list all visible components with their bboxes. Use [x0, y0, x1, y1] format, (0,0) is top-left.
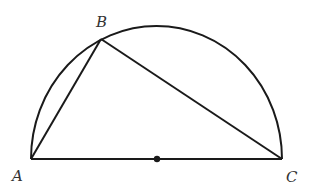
label-a: A	[10, 167, 23, 185]
semicircle-triangle-diagram: B A C	[0, 0, 312, 188]
label-c: C	[286, 168, 298, 186]
label-b: B	[95, 13, 107, 31]
center-point	[154, 156, 160, 162]
segment-bc	[101, 39, 282, 159]
segment-ab	[31, 39, 101, 159]
